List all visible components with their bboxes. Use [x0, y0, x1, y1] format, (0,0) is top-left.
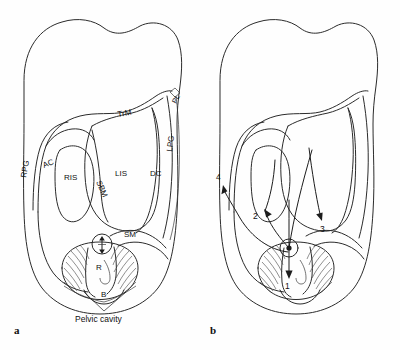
flow-number-3: 3 — [320, 224, 325, 234]
left-paracolic-gutter-outline-b — [359, 96, 368, 238]
left-paracolic-gutter-outline — [163, 96, 172, 238]
label-lpg: LPG — [165, 135, 176, 152]
rectum-outline — [86, 248, 95, 297]
label-sm: SM — [124, 230, 136, 239]
label-rpg: RPG — [19, 160, 31, 179]
right-infracolic-space-outline — [55, 146, 94, 222]
label-ris: RIS — [64, 173, 77, 182]
panel-letter-a: a — [14, 324, 20, 336]
label-r: R — [96, 263, 102, 272]
label-sbm: SBM — [94, 179, 109, 199]
flow-number-4: 4 — [216, 172, 221, 182]
transverse-mesocolon-line-b — [288, 98, 359, 126]
flow-number-2: 2 — [253, 211, 258, 221]
left-infracolic-space-boundary-b — [281, 108, 356, 231]
flow-arrow-2 — [264, 160, 289, 248]
sigmoid-lower-contour-b — [314, 242, 364, 259]
pelvic-cavity-label: Pelvic cavity — [75, 314, 123, 324]
arrows-vertical-icon — [98, 236, 106, 254]
lower-peritoneal-contour-b — [234, 212, 284, 292]
panel-a-diagram: RPG AC RIS SBM LIS DC LPG TrM PL SM R B … — [0, 0, 200, 350]
flow-number-1: 1 — [285, 281, 290, 291]
lower-peritoneal-contour — [38, 212, 88, 292]
label-b: B — [101, 290, 106, 299]
label-lis: LIS — [115, 169, 127, 178]
abdominal-outline-b — [220, 20, 378, 314]
figure-container: RPG AC RIS SBM LIS DC LPG TrM PL SM R B … — [0, 0, 400, 350]
flow-path-origin-to-mesentery — [289, 150, 312, 248]
rectum-inner-fold-b — [296, 260, 306, 284]
label-pl: PL — [170, 93, 182, 105]
panel-b-diagram: 1 2 3 4 b — [196, 0, 400, 350]
sigmoid-lower-contour — [118, 242, 168, 259]
label-ac: AC — [41, 157, 55, 170]
label-trm: TrM — [117, 108, 133, 119]
flow-arrow-3 — [309, 148, 323, 221]
bladder-outline-b — [280, 290, 320, 304]
descending-colon-outline-b — [332, 108, 353, 233]
panel-letter-b: b — [210, 324, 216, 336]
pelvic-floor-line-right — [104, 286, 136, 302]
label-dc: DC — [150, 169, 162, 178]
